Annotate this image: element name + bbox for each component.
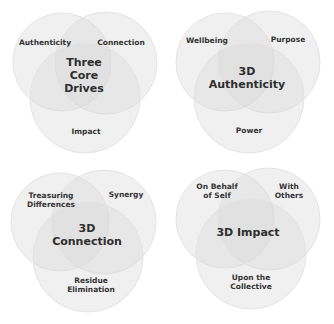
circle-bottom [194,43,304,153]
venn-title: 3D Impact [216,226,279,239]
circle-bottom [33,202,143,312]
venn-3d-impact: On Behalf of Self With Others Upon the C… [167,162,334,324]
circle-bottom [196,199,306,309]
label-right: With Others [275,183,304,200]
venn-title: 3D Connection [52,222,122,248]
label-bottom: Upon the Collective [230,274,271,291]
label-bottom: Impact [71,128,100,137]
label-left: On Behalf of Self [196,183,237,200]
label-bottom: Power [236,127,262,136]
label-right: Connection [97,39,145,48]
venn-3d-authenticity: Wellbeing Purpose Power 3D Authenticity [167,0,334,162]
label-left: Treasuring Differences [27,192,75,209]
label-right: Purpose [271,36,306,45]
label-left: Authenticity [19,39,71,48]
label-bottom: Residue Elimination [67,277,115,294]
label-left: Wellbeing [186,37,228,46]
venn-title: 3D Authenticity [209,65,285,91]
venn-title: Three Core Drives [64,56,104,96]
label-right: Synergy [109,191,144,200]
venn-3d-connection: Treasuring Differences Synergy Residue E… [0,162,167,324]
venn-three-core-drives: Authenticity Connection Impact Three Cor… [0,0,167,162]
venn-circles [167,162,334,324]
